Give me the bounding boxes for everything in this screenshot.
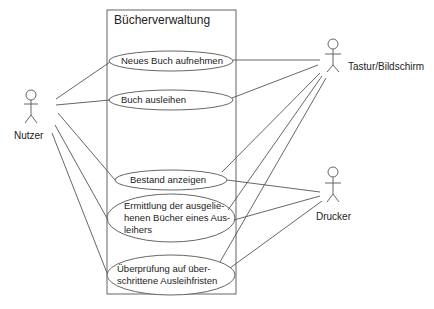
actor-label-nutzer: Nutzer	[14, 130, 43, 141]
actor-nutzer-stick-figure	[24, 90, 38, 123]
assoc-nutzer-uc2	[56, 100, 110, 105]
actor-tastatur-stick-figure	[325, 39, 341, 72]
use-case-bestand-anzeigen: Bestand anzeigen	[130, 174, 206, 186]
assoc-drucker-uc3	[227, 180, 320, 192]
assoc-tastatur-uc2	[232, 65, 318, 98]
actor-drucker-stick-figure	[325, 167, 341, 202]
actor-label-tastatur: Tastur/Bildschirm	[348, 61, 424, 72]
use-case-ermittlung-line-2: henen Bücher eines Aus-	[124, 212, 230, 224]
use-case-ueberpruefung-line-1: Überprüfung auf über-	[117, 263, 217, 275]
use-case-buch-ausleihen: Buch ausleihen	[121, 94, 186, 106]
assoc-nutzer-uc4	[55, 125, 108, 220]
actor-label-drucker: Drucker	[316, 211, 351, 222]
assoc-tastatur-uc3	[222, 73, 320, 172]
use-case-ermittlung-line-1: Ermittlung der ausgelie-	[124, 200, 230, 212]
use-case-ueberpruefung: Überprüfung auf über- schrittene Ausleih…	[117, 263, 217, 287]
assoc-drucker-uc4	[234, 196, 320, 220]
assoc-tastatur-uc4	[228, 76, 322, 210]
use-case-ermittlung: Ermittlung der ausgelie- henen Bücher ei…	[124, 200, 230, 236]
use-case-neues-buch: Neues Buch aufnehmen	[121, 55, 223, 67]
use-case-ermittlung-line-3: leihers	[124, 224, 230, 236]
use-case-ueberpruefung-line-2: schrittene Ausleihfristen	[117, 275, 217, 287]
assoc-nutzer-uc1	[56, 62, 110, 99]
assoc-drucker-uc5	[230, 201, 322, 268]
system-title: Bücherverwaltung	[114, 13, 210, 27]
